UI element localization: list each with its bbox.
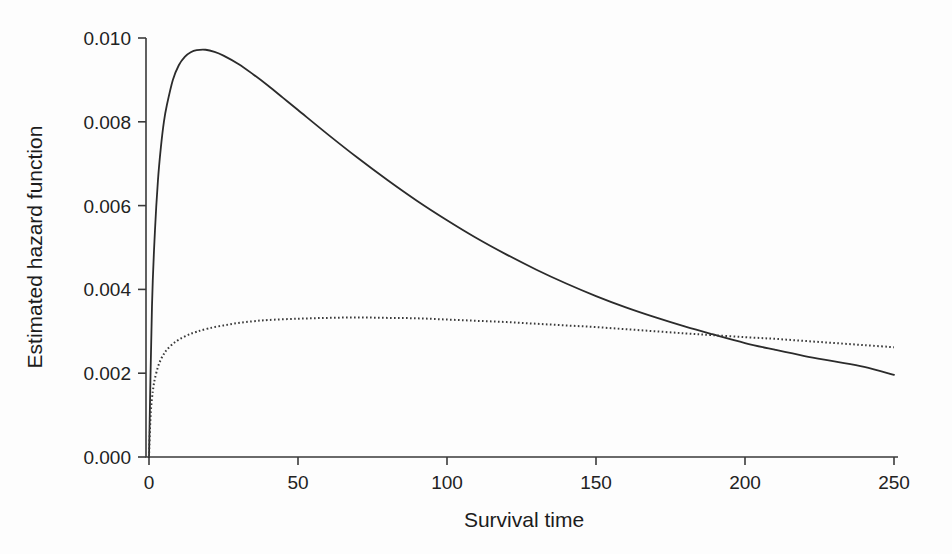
- y-tick-label: 0.006: [83, 196, 131, 217]
- y-tick-label: 0.004: [83, 279, 131, 300]
- x-axis-tick-labels: 050100150200250: [144, 472, 910, 493]
- x-tick-label: 250: [878, 472, 910, 493]
- y-axis-ticks: [138, 38, 146, 457]
- hazard-function-chart: 0.0000.0020.0040.0060.0080.010 050100150…: [0, 0, 952, 554]
- x-tick-label: 200: [729, 472, 761, 493]
- x-tick-label: 150: [580, 472, 612, 493]
- y-tick-label: 0.000: [83, 447, 131, 468]
- figure-canvas: 0.0000.0020.0040.0060.0080.010 050100150…: [0, 0, 952, 554]
- y-tick-label: 0.002: [83, 363, 131, 384]
- y-axis-title: Estimated hazard function: [23, 126, 46, 369]
- x-axis-title: Survival time: [464, 508, 584, 531]
- solid-hazard-curve: [149, 50, 894, 457]
- x-tick-label: 0: [144, 472, 155, 493]
- y-tick-label: 0.008: [83, 112, 131, 133]
- x-tick-label: 50: [287, 472, 308, 493]
- axis-lines: [146, 38, 898, 457]
- y-tick-label: 0.010: [83, 28, 131, 49]
- y-axis-tick-labels: 0.0000.0020.0040.0060.0080.010: [83, 28, 131, 468]
- x-axis-ticks: [149, 457, 894, 465]
- x-tick-label: 100: [431, 472, 463, 493]
- dotted-hazard-curve: [149, 317, 894, 457]
